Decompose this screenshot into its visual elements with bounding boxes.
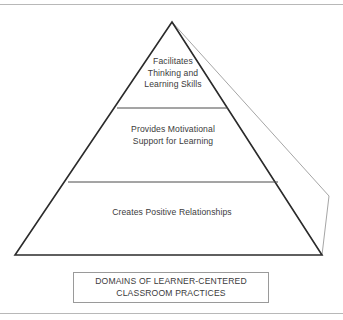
figure-bottom-rule — [0, 313, 343, 314]
pyramid-tier-label-middle: Provides Motivational Support for Learni… — [92, 124, 254, 147]
pyramid-tier-label-top: Facilitates Thinking and Learning Skills — [118, 56, 228, 91]
caption-text: DOMAINS OF LEARNER-CENTERED CLASSROOM PR… — [95, 276, 247, 300]
figure-container: Facilitates Thinking and Learning Skills… — [0, 0, 343, 320]
caption-box: DOMAINS OF LEARNER-CENTERED CLASSROOM PR… — [73, 272, 269, 303]
pyramid-tier-label-bottom: Creates Positive Relationships — [72, 207, 272, 219]
